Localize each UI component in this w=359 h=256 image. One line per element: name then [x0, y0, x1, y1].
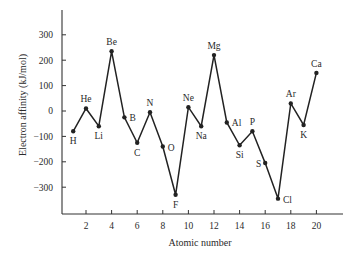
data-point-li — [97, 124, 101, 128]
data-point-c — [135, 141, 139, 145]
point-label-he: He — [80, 94, 91, 104]
y-axis-title: Electron affinity (kJ/mol) — [17, 54, 29, 156]
point-label-li: Li — [95, 131, 104, 141]
x-tick-label: 10 — [184, 221, 194, 231]
data-point-ca — [314, 71, 318, 75]
point-label-ar: Ar — [286, 89, 297, 99]
point-label-o: O — [168, 143, 175, 153]
point-label-al: Al — [232, 118, 242, 128]
y-tick-label: −300 — [33, 183, 53, 193]
point-label-cl: Cl — [283, 195, 292, 205]
point-label-s: S — [256, 159, 261, 169]
point-label-ca: Ca — [311, 59, 322, 69]
y-tick-label: −200 — [33, 157, 53, 167]
point-label-p: P — [250, 117, 255, 127]
data-point-be — [109, 49, 113, 53]
y-axis-ticks: 3002001000−100−200−300 — [33, 30, 66, 192]
y-tick-label: 300 — [39, 30, 54, 40]
x-tick-label: 14 — [235, 221, 245, 231]
point-label-ne: Ne — [183, 93, 194, 103]
x-axis-ticks: 2468101214161820 — [84, 210, 322, 231]
data-point-na — [199, 124, 203, 128]
point-label-f: F — [173, 200, 178, 210]
data-point-he — [84, 106, 88, 110]
point-label-b: B — [129, 113, 135, 123]
x-tick-label: 12 — [209, 221, 219, 231]
data-point-f — [173, 193, 177, 197]
x-axis-title: Atomic number — [168, 237, 232, 248]
y-tick-label: 0 — [48, 106, 53, 116]
data-point-o — [161, 144, 165, 148]
point-label-si: Si — [236, 150, 244, 160]
axes — [62, 10, 343, 214]
x-tick-label: 20 — [312, 221, 322, 231]
x-tick-label: 16 — [260, 221, 270, 231]
data-point-n — [148, 110, 152, 114]
data-point-si — [237, 143, 241, 147]
data-point-b — [122, 115, 126, 119]
point-label-be: Be — [106, 37, 117, 47]
data-point-ar — [289, 101, 293, 105]
data-series — [71, 49, 319, 201]
x-tick-label: 2 — [84, 221, 89, 231]
data-point-mg — [212, 53, 216, 57]
y-tick-label: 200 — [39, 56, 54, 66]
chart-canvas: 3002001000−100−200−300 2468101214161820 … — [0, 0, 359, 256]
data-point-p — [250, 129, 254, 133]
x-tick-label: 6 — [135, 221, 140, 231]
series-line — [73, 51, 316, 198]
point-label-na: Na — [196, 131, 208, 141]
data-point-al — [225, 120, 229, 124]
point-label-c: C — [134, 148, 140, 158]
point-label-n: N — [147, 98, 154, 108]
data-point-ne — [186, 105, 190, 109]
data-point-cl — [276, 196, 280, 200]
electron-affinity-chart: 3002001000−100−200−300 2468101214161820 … — [0, 0, 359, 256]
point-label-mg: Mg — [207, 41, 220, 51]
data-point-s — [263, 161, 267, 165]
y-tick-label: −100 — [33, 132, 53, 142]
point-labels: HHeLiBeBCNOFNeNaMgAlSiPSClArKCa — [70, 37, 323, 210]
y-tick-label: 100 — [39, 81, 54, 91]
point-label-h: H — [70, 136, 77, 146]
point-label-k: K — [300, 130, 307, 140]
x-tick-label: 8 — [160, 221, 165, 231]
data-point-h — [71, 129, 75, 133]
x-tick-label: 4 — [109, 221, 114, 231]
data-point-k — [301, 123, 305, 127]
x-tick-label: 18 — [286, 221, 296, 231]
